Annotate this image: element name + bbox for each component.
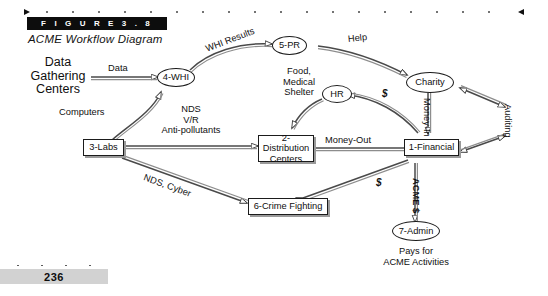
edge-label-medical: Medical (278, 77, 320, 88)
node-5-pr[interactable]: 5-PR (272, 36, 307, 55)
workflow-diagram: Data Gathering Centers 4-WHI 5-PR Charit… (0, 0, 548, 296)
node-data-gathering-centers-line1: Data (22, 56, 94, 70)
node-5-pr-label: 5-PR (279, 40, 300, 51)
annotation-line2: ACME Activities (364, 257, 468, 268)
edge-label-money-in: Money-In (422, 98, 433, 137)
node-data-gathering-centers: Data Gathering Centers (22, 56, 94, 97)
footer-dots (6, 264, 102, 267)
annotation-pays-for-acme-activities: Pays for ACME Activities (364, 246, 468, 267)
edge-label-anti-pollutants: Anti-pollutants (145, 125, 237, 136)
node-3-labs[interactable]: 3-Labs (83, 139, 124, 156)
edge-label-dollar-to-hr: $ (382, 89, 388, 100)
edge-label-nds: NDS (145, 104, 237, 115)
node-1-financial-label: 1-Financial (409, 142, 454, 153)
node-7-admin-label: 7-Admin (399, 226, 434, 237)
node-2-distribution-centers[interactable]: 2-Distribution Centers (258, 135, 314, 162)
annotation-line1: Pays for (364, 246, 468, 257)
edge-label-auditing: Auditing (503, 104, 514, 138)
node-4-whi-label: 4-WHI (163, 72, 189, 83)
edge-label-money-out: Money-Out (325, 135, 371, 146)
node-3-labs-label: 3-Labs (89, 142, 117, 153)
figure-page: F I G U R E 3 . 8 ACME Workflow Diagram (0, 0, 548, 296)
node-6-crime-fighting-label: 6-Crime Fighting (254, 201, 323, 212)
node-data-gathering-centers-line3: Centers (22, 83, 94, 97)
edge-label-dollar-to-crime: $ (376, 178, 382, 189)
node-1-financial[interactable]: 1-Financial (404, 139, 459, 156)
edge-label-acme-money: ACME $ (411, 178, 422, 213)
edge-label-food: Food, (278, 66, 320, 77)
edge-label-vr: V/R (145, 115, 237, 126)
node-6-crime-fighting[interactable]: 6-Crime Fighting (248, 198, 328, 215)
node-7-admin[interactable]: 7-Admin (392, 221, 440, 241)
node-2-distribution-centers-line2: Centers (270, 154, 303, 165)
edge-label-computers: Computers (59, 107, 104, 118)
node-charity-label: Charity (415, 77, 444, 88)
node-data-gathering-centers-line2: Gathering (22, 70, 94, 84)
node-4-whi[interactable]: 4-WHI (157, 68, 195, 87)
node-charity[interactable]: Charity (406, 72, 454, 93)
edge-label-shelter: Shelter (278, 87, 320, 98)
page-number: 236 (0, 269, 108, 284)
edge-label-food-medical-shelter: Food, Medical Shelter (278, 66, 320, 98)
node-2-distribution-centers-line1: 2-Distribution (259, 133, 313, 154)
node-hr-label: HR (330, 89, 343, 100)
edge-label-nds-vr-antipollutants: NDS V/R Anti-pollutants (145, 104, 237, 136)
edge-label-data: Data (108, 63, 128, 74)
edge-label-help: Help (347, 32, 367, 44)
node-hr[interactable]: HR (322, 85, 352, 103)
